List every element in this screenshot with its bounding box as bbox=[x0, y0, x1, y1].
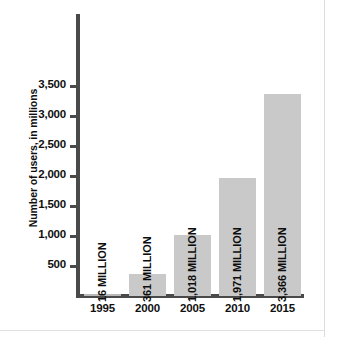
y-axis-spine bbox=[76, 14, 80, 298]
y-tick-mark bbox=[70, 235, 80, 238]
x-category-label: 1995 bbox=[80, 302, 126, 314]
y-tick-mark bbox=[70, 205, 80, 208]
x-category-label: 2000 bbox=[125, 302, 171, 314]
x-category-label: 2005 bbox=[170, 302, 216, 314]
y-tick-label: 3,000 bbox=[6, 108, 66, 120]
y-tick-mark bbox=[70, 85, 80, 88]
y-tick-label: 2,000 bbox=[6, 168, 66, 180]
y-tick-label: 1,500 bbox=[6, 198, 66, 210]
y-tick-label: 1,000 bbox=[6, 228, 66, 240]
y-tick-mark bbox=[70, 175, 80, 178]
y-tick-mark bbox=[70, 145, 80, 148]
x-category-label: 2015 bbox=[260, 302, 306, 314]
bar-value-label: 361 MILLION bbox=[141, 236, 153, 302]
bar-value-label: 3,366 MILLION bbox=[276, 228, 288, 303]
bar-value-label: 1,971 MILLION bbox=[231, 228, 243, 303]
y-tick-mark bbox=[70, 115, 80, 118]
y-tick-label: 2,500 bbox=[6, 138, 66, 150]
bar-chart: Number of users, in millions 5001,0001,5… bbox=[0, 0, 342, 337]
y-tick-label: 3,500 bbox=[6, 78, 66, 90]
bar-value-label: 16 MILLION bbox=[96, 242, 108, 302]
y-tick-label: 500 bbox=[6, 258, 66, 270]
y-tick-mark bbox=[70, 265, 80, 268]
x-category-label: 2010 bbox=[215, 302, 261, 314]
bar-value-label: 1,018 MILLION bbox=[186, 228, 198, 303]
